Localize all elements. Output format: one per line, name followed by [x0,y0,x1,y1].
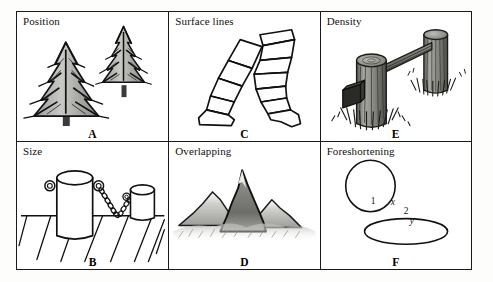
label-axis-x: x [391,197,395,207]
panel-title-surface-lines: Surface lines [175,15,233,28]
illustration-circle-and-ellipse [321,142,471,270]
panel-letter-e: E [321,128,471,140]
fence-post-far [408,30,465,96]
chain-left [98,187,120,218]
fir-tree-small [96,26,152,97]
panel-position: Position [17,12,168,141]
label-circle-number: 1 [371,196,376,206]
panel-size: Size [17,141,168,270]
panel-letter-c: C [169,128,319,140]
panel-letter-d: D [169,256,319,268]
illustration-overlapping-mountains [169,142,319,270]
panel-letter-a: A [17,128,168,140]
panel-title-size: Size [23,145,42,158]
panel-letter-b: B [17,256,168,268]
illustration-bollards-with-chains [17,142,168,270]
panel-density: Density [320,12,471,141]
panel-title-position: Position [23,15,60,28]
illustration-legs-contour-bands [169,12,319,141]
panel-title-overlapping: Overlapping [175,145,231,158]
shape-ellipse [364,218,447,244]
panel-letter-f: F [321,256,471,268]
figure-container: Position [0,0,493,282]
illustration-fence-posts [321,12,471,141]
panel-surface-lines: Surface lines [168,12,319,141]
panel-grid: Position [16,11,472,270]
label-axis-y: y [410,216,414,226]
panel-foreshortening: Foreshortening 1 2 x y F [320,141,471,270]
panel-overlapping: Overlapping [168,141,319,270]
panel-title-foreshortening: Foreshortening [327,145,395,158]
panel-title-density: Density [327,15,362,28]
label-ellipse-number: 2 [404,206,409,216]
illustration-two-fir-trees [17,12,168,141]
bollard-large [45,170,104,238]
